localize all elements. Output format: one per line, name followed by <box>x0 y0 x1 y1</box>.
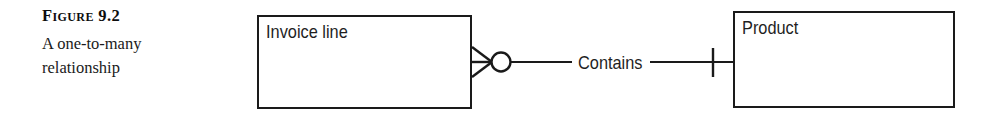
optionality-circle-icon <box>492 53 511 72</box>
figure-page: Figure 9.2 A one-to-many relationship In… <box>0 0 994 122</box>
crows-foot-icon <box>472 47 492 77</box>
er-diagram: Invoice line Product Contains <box>0 0 994 122</box>
relationship-connector <box>0 0 994 122</box>
